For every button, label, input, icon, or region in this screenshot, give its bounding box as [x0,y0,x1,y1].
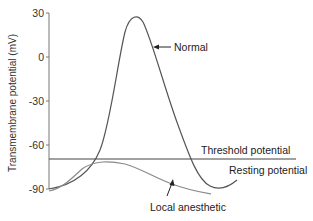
local-anesthetic-curve [49,162,211,194]
local-anesthetic-label: Local anesthetic [150,201,226,213]
normal-label: Normal [174,41,208,53]
tick-0: 0 [38,51,44,63]
normal-arrow [153,45,171,50]
threshold-label: Threshold potential [201,144,290,156]
tick-30: 30 [32,7,44,19]
action-potential-chart: 30 0 -30 -60 -90 Transmembrane potential… [0,0,313,221]
tick-neg90: -90 [29,183,44,195]
y-tick-labels: 30 0 -30 -60 -90 [29,7,44,195]
resting-label: Resting potential [229,164,307,176]
normal-curve [49,17,237,189]
tick-neg30: -30 [29,95,44,107]
tick-neg60: -60 [29,139,44,151]
local-anesthetic-arrow [167,179,175,196]
y-axis-label: Transmembrane potential (mV) [7,34,18,172]
